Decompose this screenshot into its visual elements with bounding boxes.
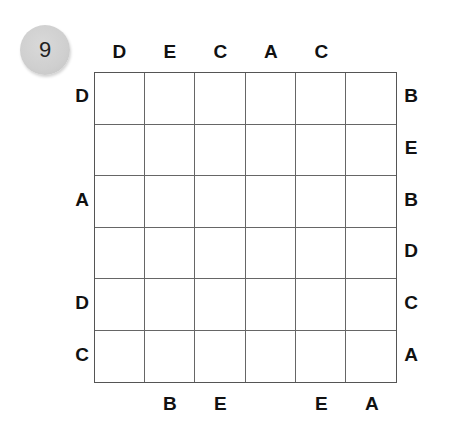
clue-right-5: C	[399, 291, 423, 315]
grid-cell-r2-c6[interactable]	[346, 125, 396, 177]
grid-cell-r3-c6[interactable]	[346, 176, 396, 228]
grid-cell-r2-c3[interactable]	[195, 125, 245, 177]
clue-top-6	[360, 40, 384, 64]
grid-cell-r3-c2[interactable]	[145, 176, 195, 228]
clue-top-1: D	[107, 40, 131, 64]
clue-top-5: C	[309, 40, 333, 64]
grid-cell-r1-c2[interactable]	[145, 73, 195, 125]
grid-cell-r1-c6[interactable]	[346, 73, 396, 125]
clue-bottom-1	[107, 392, 131, 416]
grid-cell-r2-c1[interactable]	[95, 125, 145, 177]
grid-cell-r1-c4[interactable]	[246, 73, 296, 125]
grid-cell-r4-c1[interactable]	[95, 228, 145, 280]
grid-cell-r2-c2[interactable]	[145, 125, 195, 177]
clue-left-4	[70, 239, 94, 263]
grid-cell-r4-c3[interactable]	[195, 228, 245, 280]
grid-cell-r4-c4[interactable]	[246, 228, 296, 280]
grid-cell-r4-c5[interactable]	[296, 228, 346, 280]
grid-cell-r5-c4[interactable]	[246, 279, 296, 331]
grid-cell-r2-c4[interactable]	[246, 125, 296, 177]
grid-cell-r5-c6[interactable]	[346, 279, 396, 331]
grid-cell-r6-c6[interactable]	[346, 331, 396, 383]
grid-cell-r6-c5[interactable]	[296, 331, 346, 383]
clue-top-2: E	[158, 40, 182, 64]
clue-left-5: D	[70, 291, 94, 315]
grid-cell-r4-c6[interactable]	[346, 228, 396, 280]
clue-right-3: B	[399, 188, 423, 212]
clue-right-1: B	[399, 84, 423, 108]
clue-top-4: A	[259, 40, 283, 64]
clue-right-2: E	[399, 136, 423, 160]
grid-cell-r6-c1[interactable]	[95, 331, 145, 383]
grid-cell-r6-c4[interactable]	[246, 331, 296, 383]
clue-bottom-2: B	[158, 392, 182, 416]
grid-cell-r1-c3[interactable]	[195, 73, 245, 125]
clue-left-2	[70, 136, 94, 160]
grid-cell-r3-c3[interactable]	[195, 176, 245, 228]
puzzle-grid	[94, 72, 397, 383]
grid-cell-r6-c2[interactable]	[145, 331, 195, 383]
clue-bottom-3: E	[208, 392, 232, 416]
puzzle-number: 9	[39, 37, 51, 63]
clue-left-6: C	[70, 343, 94, 367]
clue-left-1: D	[70, 84, 94, 108]
grid-cell-r2-c5[interactable]	[296, 125, 346, 177]
grid-cell-r5-c1[interactable]	[95, 279, 145, 331]
grid-cell-r1-c1[interactable]	[95, 73, 145, 125]
grid-cell-r4-c2[interactable]	[145, 228, 195, 280]
grid-cell-r1-c5[interactable]	[296, 73, 346, 125]
clue-left-3: A	[70, 188, 94, 212]
clue-bottom-5: E	[309, 392, 333, 416]
grid-cell-r3-c4[interactable]	[246, 176, 296, 228]
grid-cell-r3-c5[interactable]	[296, 176, 346, 228]
grid-cell-r5-c5[interactable]	[296, 279, 346, 331]
clue-bottom-6: A	[360, 392, 384, 416]
grid-cell-r3-c1[interactable]	[95, 176, 145, 228]
puzzle-number-badge: 9	[20, 25, 70, 75]
grid-cell-r5-c3[interactable]	[195, 279, 245, 331]
clue-bottom-4	[259, 392, 283, 416]
grid-cell-r5-c2[interactable]	[145, 279, 195, 331]
clue-top-3: C	[208, 40, 232, 64]
grid-cell-r6-c3[interactable]	[195, 331, 245, 383]
clue-right-4: D	[399, 239, 423, 263]
clue-right-6: A	[399, 343, 423, 367]
